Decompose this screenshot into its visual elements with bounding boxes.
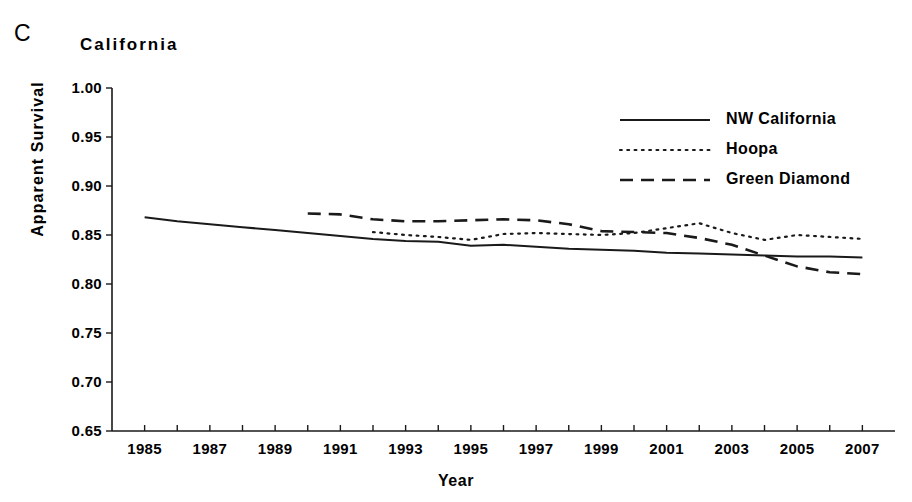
plot-area (0, 0, 912, 502)
x-tick-label: 1993 (371, 440, 441, 457)
x-tick-label: 1997 (501, 440, 571, 457)
x-tick-label: 1989 (240, 440, 310, 457)
y-tick-label: 0.80 (40, 275, 102, 292)
legend-line-samples (620, 120, 710, 180)
x-tick-label: 1995 (436, 440, 506, 457)
figure-panel-c: C California Apparent Survival Year 1.00… (0, 0, 912, 502)
series-line-1 (373, 223, 862, 240)
y-tick-label: 0.95 (40, 128, 102, 145)
data-series (145, 213, 863, 274)
x-tick-label: 1999 (566, 440, 636, 457)
legend-label-1: Hoopa (726, 140, 778, 158)
x-tick-label: 2007 (827, 440, 897, 457)
legend-label-2: Green Diamond (726, 170, 850, 188)
x-tick-label: 1991 (305, 440, 375, 457)
x-tick-label: 1985 (110, 440, 180, 457)
y-tick-label: 0.65 (40, 422, 102, 439)
y-tick-label: 0.75 (40, 324, 102, 341)
series-line-2 (308, 213, 863, 274)
y-tick-label: 0.70 (40, 373, 102, 390)
y-tick-label: 0.90 (40, 177, 102, 194)
y-tick-label: 1.00 (40, 79, 102, 96)
x-tick-label: 2005 (762, 440, 832, 457)
x-tick-label: 2003 (697, 440, 767, 457)
x-tick-label: 1987 (175, 440, 245, 457)
x-tick-label: 2001 (632, 440, 702, 457)
y-tick-label: 0.85 (40, 226, 102, 243)
legend-label-0: NW California (726, 110, 836, 128)
